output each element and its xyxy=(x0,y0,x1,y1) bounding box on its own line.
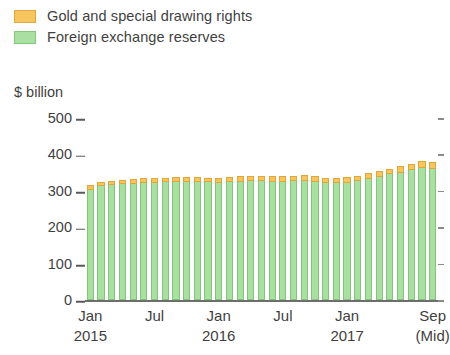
bar-21 xyxy=(311,176,318,300)
bar-segment-forex xyxy=(151,183,158,300)
y-tick-300: 300 xyxy=(3,184,85,199)
bar-24 xyxy=(343,177,350,300)
x-tick-label-line1: Jan xyxy=(207,307,231,324)
bar-series-container xyxy=(85,118,438,300)
y-tick-200: 200 xyxy=(3,220,85,235)
legend-label-forex: Foreign exchange reserves xyxy=(47,30,225,45)
bar-segment-forex xyxy=(226,182,233,300)
y-tick-100: 100 xyxy=(3,256,85,271)
bar-segment-forex xyxy=(354,181,361,300)
bar-segment-forex xyxy=(215,183,222,300)
y-tick-label: 300 xyxy=(48,183,72,199)
bar-segment-forex xyxy=(97,186,104,300)
x-tick-label-3: Jul xyxy=(273,306,292,326)
bar-0 xyxy=(87,185,94,300)
bar-segment-forex xyxy=(172,182,179,300)
bar-segment-forex xyxy=(269,182,276,300)
bar-segment-forex xyxy=(397,173,404,300)
bar-segment-forex xyxy=(258,181,265,300)
x-tick-label-line1: Jan xyxy=(78,307,102,324)
bar-segment-forex xyxy=(290,181,297,300)
bar-5 xyxy=(140,178,147,300)
y-tick-mark-icon xyxy=(76,265,85,267)
bar-32 xyxy=(429,162,436,300)
legend-label-gold: Gold and special drawing rights xyxy=(47,9,252,24)
bar-9 xyxy=(183,177,190,300)
x-tick-label-4: Jan2017 xyxy=(330,306,363,346)
bar-11 xyxy=(204,178,211,300)
bar-segment-forex xyxy=(365,179,372,300)
bar-1 xyxy=(97,182,104,300)
x-tick-label-line1: Jul xyxy=(273,307,292,324)
bar-20 xyxy=(301,175,308,300)
bar-segment-forex xyxy=(108,185,115,300)
x-tick-label-1: Jul xyxy=(145,306,164,326)
y-tick-label: 400 xyxy=(48,146,72,162)
bar-segment-forex xyxy=(87,190,94,300)
bar-3 xyxy=(119,180,126,300)
y-tick-label: 500 xyxy=(48,110,72,126)
y-tick-mark-icon xyxy=(76,301,85,303)
x-tick-label-0: Jan2015 xyxy=(74,306,107,346)
y-tick-mark-icon xyxy=(76,156,85,158)
bar-segment-forex xyxy=(140,183,147,300)
right-tick-100 xyxy=(438,264,444,266)
bar-19 xyxy=(290,176,297,300)
x-tick-label-line1: Sep xyxy=(419,307,446,324)
bar-segment-forex xyxy=(418,168,425,300)
right-tick-500 xyxy=(438,118,444,120)
bar-segment-forex xyxy=(386,174,393,300)
right-tick-400 xyxy=(438,154,444,156)
bar-29 xyxy=(397,166,404,300)
bar-14 xyxy=(237,176,244,300)
legend-item-forex: Foreign exchange reserves xyxy=(14,27,252,48)
legend-swatch-gold-icon xyxy=(14,10,36,23)
plot-area xyxy=(85,118,438,300)
bar-22 xyxy=(322,178,329,300)
bar-segment-forex xyxy=(322,183,329,300)
y-tick-mark-icon xyxy=(76,192,85,194)
y-tick-mark-icon xyxy=(76,228,85,230)
bar-23 xyxy=(333,178,340,300)
y-tick-mark-icon xyxy=(76,119,85,121)
bar-segment-forex xyxy=(247,181,254,300)
bar-segment-forex xyxy=(279,182,286,300)
y-tick-label: 200 xyxy=(48,219,72,235)
y-tick-400: 400 xyxy=(3,147,85,162)
bar-10 xyxy=(194,177,201,300)
bar-segment-forex xyxy=(119,184,126,300)
bar-8 xyxy=(172,177,179,300)
bar-segment-forex xyxy=(343,183,350,300)
y-axis-title: $ billion xyxy=(14,84,63,100)
y-tick-500: 500 xyxy=(3,111,85,126)
chart-legend: Gold and special drawing rights Foreign … xyxy=(14,6,252,48)
bar-13 xyxy=(226,177,233,300)
bar-17 xyxy=(269,176,276,300)
x-tick-label-line2: (Mid) xyxy=(416,326,450,346)
bar-18 xyxy=(279,176,286,300)
bar-segment-forex xyxy=(194,182,201,300)
x-axis-baseline xyxy=(85,300,438,302)
bar-7 xyxy=(162,178,169,300)
bar-segment-forex xyxy=(183,182,190,300)
bar-6 xyxy=(151,178,158,300)
bar-segment-forex xyxy=(301,181,308,300)
bar-2 xyxy=(108,181,115,300)
bar-27 xyxy=(376,171,383,300)
bar-segment-forex xyxy=(204,182,211,300)
bar-segment-forex xyxy=(333,183,340,300)
bar-31 xyxy=(418,161,425,300)
legend-swatch-green-icon xyxy=(14,31,36,44)
y-tick-label: 100 xyxy=(48,255,72,271)
bar-16 xyxy=(258,176,265,300)
x-tick-label-5: Sep(Mid) xyxy=(416,306,450,346)
bar-segment-forex xyxy=(130,184,137,300)
bar-28 xyxy=(386,169,393,300)
legend-item-gold: Gold and special drawing rights xyxy=(14,6,252,27)
bar-12 xyxy=(215,178,222,300)
x-tick-label-line1: Jul xyxy=(145,307,164,324)
bar-30 xyxy=(408,164,415,301)
x-tick-label-line1: Jan xyxy=(335,307,359,324)
x-tick-label-line2: 2017 xyxy=(330,326,363,346)
bar-segment-forex xyxy=(408,170,415,300)
